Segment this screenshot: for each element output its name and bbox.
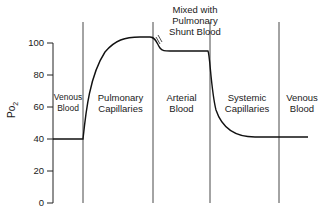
region-label-line1: Venous (53, 92, 83, 103)
region-label-line2: Capillaries (216, 103, 278, 114)
y-axis-label-sub: 2 (12, 102, 19, 106)
region-label-line2: Blood (53, 103, 83, 114)
region-label-line2: Capillaries (88, 103, 153, 114)
annotation-line2: Pulmonary (160, 15, 230, 26)
ytick-label-0: 0 (14, 198, 44, 208)
y-ticks (47, 43, 53, 203)
region-label-venous-blood-left: Venous Blood (53, 92, 83, 114)
region-label-line1: Venous (279, 92, 325, 103)
annotation-line1: Mixed with (160, 4, 230, 15)
region-label-line1: Systemic (216, 92, 278, 103)
ytick-label-20: 20 (14, 166, 44, 176)
region-label-venous-blood-right: Venous Blood (279, 92, 325, 114)
region-label-pulmonary-capillaries: Pulmonary Capillaries (88, 92, 153, 114)
y-axis-label-main: Po (6, 106, 17, 118)
ytick-label-80: 80 (14, 70, 44, 80)
region-label-systemic-capillaries: Systemic Capillaries (216, 92, 278, 114)
region-label-line2: Blood (279, 103, 325, 114)
po2-curve (53, 37, 308, 139)
region-label-arterial-blood: Arterial Blood (153, 92, 210, 114)
ytick-label-100: 100 (14, 38, 44, 48)
ytick-label-40: 40 (14, 134, 44, 144)
region-label-line1: Pulmonary (88, 92, 153, 103)
region-label-line1: Arterial (153, 92, 210, 103)
y-axis-label: Po2 (6, 102, 19, 118)
annotation-line3: Shunt Blood (160, 26, 230, 37)
region-label-line2: Blood (153, 103, 210, 114)
shunt-annotation: Mixed with Pulmonary Shunt Blood (160, 4, 230, 37)
